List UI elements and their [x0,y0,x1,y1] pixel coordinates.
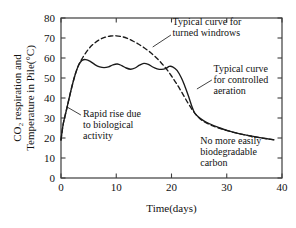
y-tick-label-10: 10 [44,152,56,164]
y-tick-label-70: 70 [44,32,56,44]
y-tick-label-80: 80 [44,12,56,24]
y-axis-title: CO₂ respiration andTemperature in Pile(°… [11,45,37,151]
y-tick-label-40: 40 [44,92,56,104]
y-tick-label-0: 0 [50,172,56,184]
y-tick-label-20: 20 [44,132,56,144]
x-tick-label-10: 10 [111,181,123,193]
x-tick-label-20: 20 [166,181,178,193]
x-tick-label-0: 0 [58,181,64,193]
x-tick-label-40: 40 [277,181,289,193]
x-axis-title: Time(days) [146,202,197,215]
annotation-text-turned-windrows: Typical curve forturned windrows [173,16,242,38]
x-tick-label-30: 30 [221,181,233,193]
y-axis-tick-labels: 01020304050607080 [44,12,56,184]
composting-temperature-chart: 010203040 01020304050607080 Rapid rise d… [0,0,296,228]
y-tick-label-50: 50 [44,72,56,84]
chart-figure: 010203040 01020304050607080 Rapid rise d… [0,0,296,228]
y-tick-label-30: 30 [44,112,56,124]
y-tick-label-60: 60 [44,52,56,64]
